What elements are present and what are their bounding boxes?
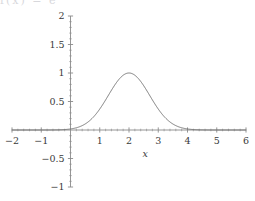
x-tick-label: 6 xyxy=(243,135,249,146)
x-tick-label: 5 xyxy=(214,135,220,146)
x-axis-label: x xyxy=(142,148,148,159)
gaussian-plot-figure: −2−1123456 −1−0.50.511.52 x xyxy=(0,0,255,201)
x-tick-label-group: −2−1123456 xyxy=(5,135,249,146)
x-tick-label: 1 xyxy=(97,135,103,146)
x-tick-label: −1 xyxy=(34,135,48,146)
y-tick-label: −0.5 xyxy=(41,153,64,164)
y-tick-label: 2 xyxy=(58,10,64,21)
x-tick-label: 3 xyxy=(155,135,161,146)
x-tick-label: −2 xyxy=(5,135,19,146)
y-tick-label: −1 xyxy=(50,181,64,192)
x-tick-label: 4 xyxy=(184,135,190,146)
gaussian-curve xyxy=(12,73,246,130)
y-tick-label: 1.5 xyxy=(49,39,64,50)
x-tick-label: 2 xyxy=(126,135,132,146)
y-tick-label-group: −1−0.50.511.52 xyxy=(41,10,64,192)
y-tick-label: 0.5 xyxy=(49,96,64,107)
y-tick-label: 1 xyxy=(58,67,64,78)
plot-svg: −2−1123456 −1−0.50.511.52 x xyxy=(0,0,255,201)
